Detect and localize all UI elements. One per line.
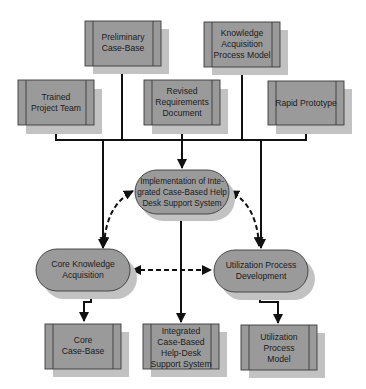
label-line: Case-Base <box>102 43 145 53</box>
label-line: Knowledge <box>221 28 264 38</box>
label-line: Integrated <box>162 326 201 336</box>
label-line: Desk Support System <box>142 199 221 208</box>
label-line: Acquisition <box>221 39 263 49</box>
label-line: Utilization Process <box>226 260 297 270</box>
output-box-core-case-base: Core Case-Base <box>45 324 129 377</box>
label-line: Rapid Prototype <box>275 98 337 108</box>
label-line: Trained <box>42 92 71 102</box>
label-line: Support System <box>150 359 211 369</box>
label-line: Process <box>263 343 294 353</box>
label-line: Core Knowledge <box>51 259 115 269</box>
label-line: grated Case-Based Help <box>137 188 227 197</box>
label-line: Help-Desk <box>161 348 202 358</box>
label-line: Revised <box>166 86 197 96</box>
input-box-preliminary-case-base: Preliminary Case-Base <box>85 21 169 74</box>
label-line: Utilization <box>260 332 297 342</box>
label-line: Case-Based <box>157 337 205 347</box>
output-box-utilization-process-model: Utilization Process Model <box>241 325 325 378</box>
label-line: Implementation of Inte- <box>140 177 224 186</box>
input-box-revised-requirements-document: Revised Requirements Document <box>144 80 228 134</box>
label-line: Preliminary <box>102 32 146 42</box>
label-line: Acquisition <box>62 270 104 280</box>
label-line: Model <box>267 354 290 364</box>
output-box-integrated-help-desk: Integrated Case-Based Help-Desk Support … <box>143 324 227 377</box>
label-line: Project Team <box>31 103 81 113</box>
process-oval-utilization-process-development: Utilization Process Development <box>214 250 315 300</box>
dashed-core-implementation <box>104 191 133 246</box>
label-line: Core <box>74 335 93 345</box>
process-oval-implementation: Implementation of Inte- grated Case-Base… <box>135 170 235 221</box>
label-line: Process Model <box>214 50 271 60</box>
process-oval-core-knowledge-acquisition: Core Knowledge Acquisition <box>36 249 137 299</box>
label-line: Development <box>236 271 287 281</box>
process-diagram: Preliminary Case-Base Knowledge Acquisit… <box>0 0 366 389</box>
input-box-knowledge-acquisition-process-model: Knowledge Acquisition Process Model <box>204 22 288 75</box>
label-line: Requirements <box>155 97 209 107</box>
input-box-trained-project-team: Trained Project Team <box>18 80 102 134</box>
input-box-rapid-prototype: Rapid Prototype <box>268 81 352 134</box>
label-line: Case-Base <box>62 346 105 356</box>
label-line: Document <box>162 108 202 118</box>
